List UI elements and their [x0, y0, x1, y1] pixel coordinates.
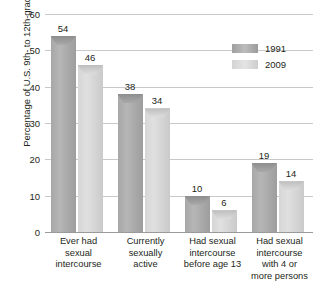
gridline-60	[45, 14, 313, 15]
y-tick-label-10: 10	[29, 190, 40, 201]
x-axis-label-line: Had sexual	[240, 236, 316, 248]
gridline-0	[45, 232, 313, 233]
bar-face	[145, 108, 170, 232]
x-axis-label-line: more persons	[240, 271, 316, 283]
legend-item-1991: 1991	[232, 42, 310, 55]
bar-face	[118, 94, 143, 232]
bar-2009-group-1: 46	[78, 65, 103, 232]
y-tick-label-40: 40	[29, 81, 40, 92]
bar-2009-group-4: 14	[279, 181, 304, 232]
legend-swatch-icon-1991	[232, 44, 258, 53]
legend-label-2009: 2009	[265, 59, 286, 70]
bar-value-label: 46	[85, 52, 96, 63]
x-axis-label-4: Had sexualintercoursewith 4 ormore perso…	[240, 236, 316, 282]
bar-2009-group-3: 6	[212, 210, 237, 232]
y-tick-label-20: 20	[29, 154, 40, 165]
legend-label-1991: 1991	[265, 43, 286, 54]
bar-value-label: 19	[259, 150, 270, 161]
bar-1991-group-1: 54	[51, 36, 76, 232]
bar-1991-group-4: 19	[252, 163, 277, 232]
bar-face	[252, 163, 277, 232]
bar-2009-group-2: 34	[145, 108, 170, 232]
x-axis-label-line: intercourse	[240, 248, 316, 260]
y-tick-label-60: 60	[29, 9, 40, 20]
bar-value-label: 10	[192, 183, 203, 194]
x-axis-label-line: with 4 or	[240, 259, 316, 271]
bar-1991-group-3: 10	[185, 196, 210, 232]
x-axis-labels: Ever hadsexualintercourseCurrentlysexual…	[45, 236, 313, 296]
bar-1991-group-2: 38	[118, 94, 143, 232]
bar-value-label: 34	[152, 95, 163, 106]
y-tick-label-50: 50	[29, 45, 40, 56]
bar-value-label: 6	[221, 197, 226, 208]
y-tick-label-30: 30	[29, 118, 40, 129]
bar-value-label: 14	[286, 168, 297, 179]
bar-value-label: 54	[58, 23, 69, 34]
y-axis-ticks: 0102030405060	[8, 14, 40, 232]
legend-swatch-icon-2009	[232, 60, 258, 69]
bar-value-label: 38	[125, 81, 136, 92]
legend-item-2009: 2009	[232, 58, 310, 71]
bar-face	[78, 65, 103, 232]
bar-face	[51, 36, 76, 232]
legend: 1991 2009	[232, 42, 310, 74]
bar-chart: Percentage of U.S. 9th- to 12th-graders …	[0, 0, 316, 300]
